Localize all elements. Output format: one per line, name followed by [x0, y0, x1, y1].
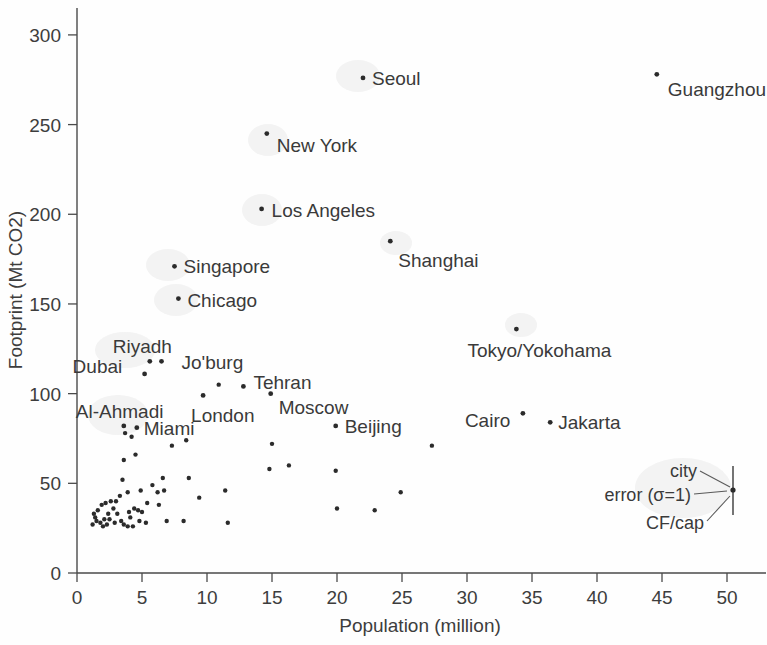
data-point-labeled: [333, 424, 338, 429]
data-point: [126, 524, 130, 528]
data-point: [267, 467, 271, 471]
data-point: [430, 443, 434, 447]
data-point: [150, 483, 154, 487]
data-point-labeled: [176, 296, 181, 301]
data-point: [100, 503, 104, 507]
data-point: [373, 508, 377, 512]
data-point: [127, 510, 131, 514]
data-point-labeled: [548, 420, 553, 425]
city-label: Chicago: [187, 290, 257, 311]
data-point: [140, 510, 144, 514]
data-point-labeled: [361, 76, 366, 81]
data-point: [270, 442, 274, 446]
data-point: [96, 508, 100, 512]
data-point: [187, 476, 191, 480]
data-point: [120, 478, 124, 482]
data-point: [334, 469, 338, 473]
data-point-labeled: [147, 359, 152, 364]
data-point: [105, 522, 109, 526]
data-point: [399, 490, 403, 494]
data-point: [139, 488, 143, 492]
data-point: [184, 438, 188, 442]
y-tick-label: 150: [29, 294, 61, 315]
city-label: Miami: [144, 418, 195, 439]
city-label: Los Angeles: [272, 200, 376, 221]
data-point-labeled: [241, 384, 246, 389]
data-point: [119, 519, 123, 523]
data-point: [103, 501, 107, 505]
x-tick-label: 0: [72, 587, 83, 608]
city-label: Jo'burg: [182, 352, 244, 373]
data-point-labeled: [388, 239, 393, 244]
data-point: [181, 519, 185, 523]
data-point: [106, 512, 110, 516]
data-point: [118, 494, 122, 498]
data-point: [217, 382, 221, 386]
data-point-labeled: [172, 264, 177, 269]
data-point-labeled: [134, 425, 139, 430]
data-point: [136, 508, 140, 512]
city-label: Jakarta: [558, 412, 621, 433]
data-point-labeled: [201, 393, 206, 398]
y-tick-label: 250: [29, 115, 61, 136]
data-point: [126, 490, 130, 494]
x-tick-label: 20: [326, 587, 347, 608]
y-tick-label: 200: [29, 204, 61, 225]
data-point-labeled: [142, 372, 147, 377]
legend-label-error: error (σ=1): [604, 485, 691, 505]
x-tick-label: 30: [456, 587, 477, 608]
data-point: [98, 521, 102, 525]
scan-artifacts: [88, 60, 731, 518]
data-point: [102, 517, 106, 521]
data-point: [128, 515, 132, 519]
city-label: Moscow: [279, 397, 349, 418]
data-point: [161, 476, 165, 480]
data-point: [111, 506, 115, 510]
city-label: Beijing: [345, 416, 402, 437]
data-point: [157, 503, 161, 507]
data-point-labeled: [264, 131, 269, 136]
data-point: [122, 458, 126, 462]
city-label: Tehran: [253, 372, 311, 393]
x-tick-label: 15: [261, 587, 282, 608]
data-point: [92, 512, 96, 516]
city-label: Singapore: [184, 256, 271, 277]
city-label: Guangzhou: [668, 79, 766, 100]
y-tick-label: 300: [29, 25, 61, 46]
data-point-labeled: [159, 359, 164, 364]
x-tick-label: 25: [391, 587, 412, 608]
y-axis-title: Footprint (Mt CO2): [5, 211, 26, 369]
x-axis-title: Population (million): [339, 615, 501, 636]
city-label: Cairo: [465, 410, 510, 431]
city-label: London: [191, 405, 254, 426]
y-tick-label: 100: [29, 384, 61, 405]
data-point: [137, 519, 141, 523]
data-point: [129, 434, 133, 438]
data-point: [162, 488, 166, 492]
city-label: New York: [277, 135, 358, 156]
data-point: [123, 431, 127, 435]
data-point: [145, 501, 149, 505]
city-label: Seoul: [372, 68, 421, 89]
data-point: [90, 522, 94, 526]
data-point: [107, 517, 111, 521]
legend-city-dot: [730, 487, 735, 492]
data-point: [223, 488, 227, 492]
scatter-plot-figure: 050100150200250300 05101520253035404550 …: [0, 0, 767, 645]
data-point-labeled: [521, 411, 526, 416]
x-tick-label: 5: [137, 587, 148, 608]
x-tick-label: 40: [586, 587, 607, 608]
data-point: [122, 522, 126, 526]
y-tick-label: 50: [40, 473, 61, 494]
city-label: Dubai: [73, 356, 123, 377]
x-tick-label: 10: [196, 587, 217, 608]
legend-label-cf-per-cap: CF/cap: [646, 513, 704, 533]
data-point: [165, 519, 169, 523]
city-label: Riyadh: [113, 336, 172, 357]
city-label: Tokyo/Yokohama: [467, 340, 611, 361]
city-label: Shanghai: [398, 250, 478, 271]
y-axis-ticks: 050100150200250300: [29, 25, 77, 584]
data-point: [335, 506, 339, 510]
data-point-labeled: [654, 72, 659, 77]
x-tick-label: 35: [521, 587, 542, 608]
